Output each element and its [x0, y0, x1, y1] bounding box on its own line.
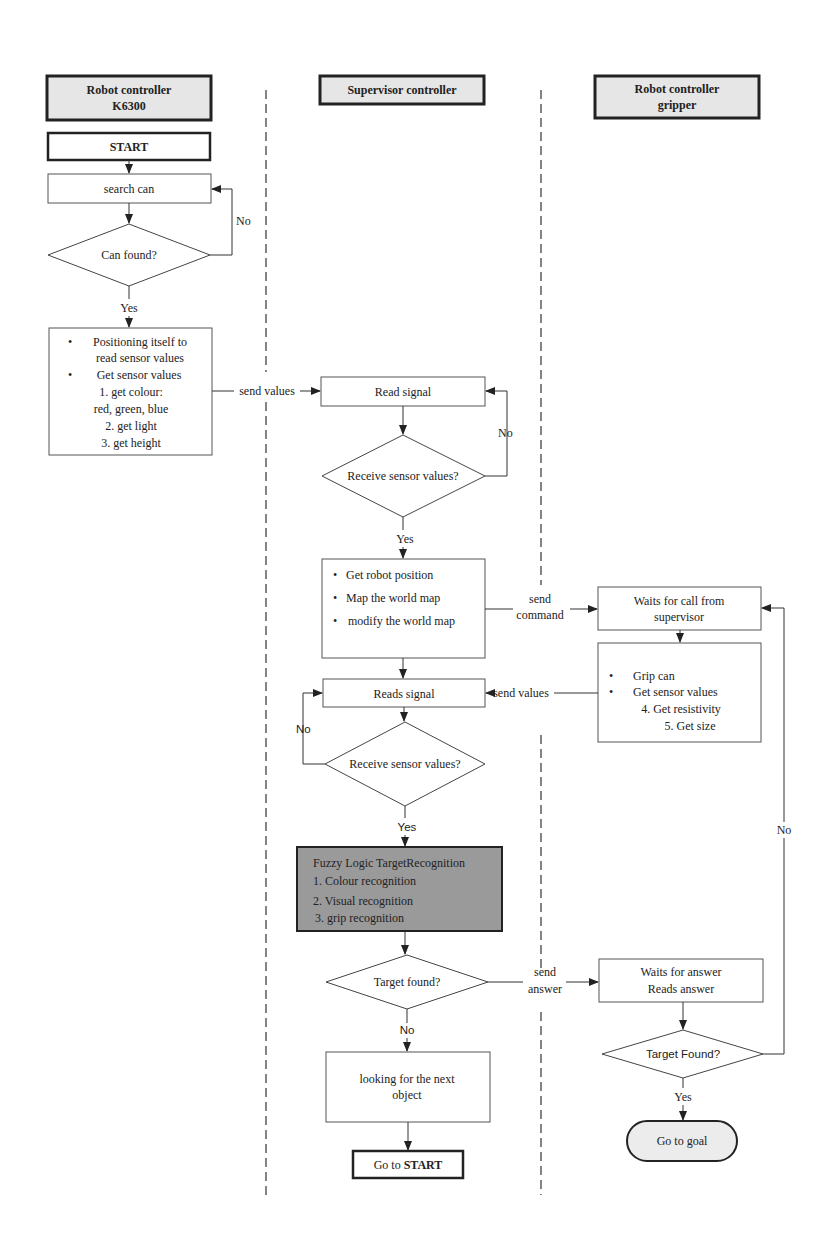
go-to-start-bold: START — [404, 1158, 443, 1172]
target-found-decision: Target found? — [326, 955, 488, 1009]
search-can-label: search can — [104, 182, 154, 196]
no-label: No — [236, 214, 251, 228]
bullet: • — [609, 669, 613, 683]
sensor-values-box: • Positioning itself to read sensor valu… — [49, 328, 212, 455]
send-values-label: send values — [493, 686, 549, 700]
receive-sensor-decision-1: Receive sensor values? — [322, 435, 485, 517]
lane-header-robot-k6300: Robot controller K6300 — [47, 76, 211, 120]
fuzzy-item: 3. grip recognition — [315, 911, 404, 925]
gripper-target-found-decision: Target Found? — [602, 1030, 763, 1078]
next-object-line: object — [392, 1088, 422, 1102]
map-box-line: modify the world map — [348, 614, 455, 628]
waits-for-answer-node: Waits for answer Reads answer — [599, 959, 763, 1002]
bullet: • — [68, 335, 72, 349]
yes-label: Yes — [398, 821, 417, 833]
map-box-line: Get robot position — [346, 568, 433, 582]
receive-sensor-decision-2: Receive sensor values? — [325, 722, 485, 806]
send-answer-label: send — [534, 965, 556, 979]
no-label: No — [400, 1024, 415, 1036]
send-command-label: send — [529, 592, 551, 606]
send-values-label: send values — [239, 384, 295, 398]
search-can-node: search can — [48, 174, 211, 203]
read-signal-node: Read signal — [321, 377, 485, 406]
send-answer-label: answer — [528, 982, 562, 996]
grip-box-line: 5. Get size — [665, 719, 716, 733]
lane-header-line: Robot controller — [635, 82, 720, 96]
no-loop-arrow — [210, 189, 232, 255]
waits-call-line: Waits for call from — [634, 594, 725, 608]
lane-header-supervisor: Supervisor controller — [320, 76, 484, 104]
start-node: START — [48, 133, 210, 160]
waits-answer-line: Waits for answer — [640, 965, 721, 979]
sensor-box-line: read sensor values — [96, 351, 184, 365]
waits-call-line: supervisor — [654, 610, 704, 624]
map-box-line: Map the world map — [346, 591, 440, 605]
world-map-box: • Get robot position • Map the world map… — [322, 559, 485, 658]
sensor-box-line: Get sensor values — [97, 368, 182, 382]
fuzzy-logic-box: Fuzzy Logic TargetRecognition 1. Colour … — [297, 847, 502, 931]
go-to-start-label: Go to START — [374, 1158, 443, 1172]
go-to-goal-terminal: Go to goal — [627, 1121, 737, 1161]
send-command-label: command — [516, 608, 563, 622]
lane-header-line: gripper — [658, 98, 697, 112]
yes-label: Yes — [674, 1090, 692, 1104]
fuzzy-title: Fuzzy Logic TargetRecognition — [313, 856, 465, 870]
next-object-box: looking for the next object — [326, 1052, 490, 1122]
reads-signal-node: Reads signal — [323, 679, 485, 707]
flowchart-canvas: Robot controller K6300 Supervisor contro… — [0, 0, 828, 1240]
fuzzy-item: 1. Colour recognition — [313, 874, 416, 888]
bullet: • — [333, 591, 337, 605]
sensor-box-line: 3. get height — [101, 436, 161, 450]
lane-header-line: K6300 — [112, 99, 145, 113]
reads-signal-label: Reads signal — [374, 687, 436, 701]
lane-header-line: Robot controller — [87, 83, 172, 97]
can-found-decision: Can found? — [48, 224, 210, 286]
sensor-box-line: 1. get colour: — [99, 385, 163, 399]
no-label: No — [498, 426, 513, 440]
go-to-start-node: Go to START — [353, 1151, 463, 1178]
bullet: • — [609, 685, 613, 699]
bullet: • — [333, 614, 337, 628]
decision-label: Can found? — [101, 248, 157, 262]
no-label: No — [296, 723, 311, 735]
waits-for-call-node: Waits for call from supervisor — [598, 587, 761, 630]
decision-label: Receive sensor values? — [347, 469, 458, 483]
next-object-line: looking for the next — [360, 1072, 456, 1086]
read-signal-label: Read signal — [375, 385, 432, 399]
go-to-goal-label: Go to goal — [657, 1134, 708, 1148]
grip-can-box: • Grip can • Get sensor values 4. Get re… — [598, 643, 761, 742]
decision-label: Target found? — [374, 975, 441, 989]
waits-answer-line: Reads answer — [648, 982, 714, 996]
grip-box-line: Grip can — [633, 669, 675, 683]
lane-header-line: Supervisor controller — [347, 83, 457, 97]
decision-label: Target Found? — [646, 1048, 720, 1060]
no-label: No — [777, 823, 792, 837]
lane-header-robot-gripper: Robot controller gripper — [595, 76, 759, 118]
yes-label: Yes — [120, 301, 138, 315]
grip-box-line: 4. Get resistivity — [641, 702, 721, 716]
start-label: START — [110, 140, 149, 154]
sensor-box-line: 2. get light — [105, 419, 157, 433]
decision-label: Receive sensor values? — [349, 757, 460, 771]
yes-label: Yes — [396, 532, 414, 546]
grip-box-line: Get sensor values — [633, 685, 718, 699]
go-to-start-prefix: Go to — [374, 1158, 404, 1172]
fuzzy-item: 2. Visual recognition — [313, 894, 413, 908]
bullet: • — [68, 368, 72, 382]
bullet: • — [333, 568, 337, 582]
sensor-box-line: Positioning itself to — [93, 335, 187, 349]
sensor-box-line: red, green, blue — [94, 402, 169, 416]
